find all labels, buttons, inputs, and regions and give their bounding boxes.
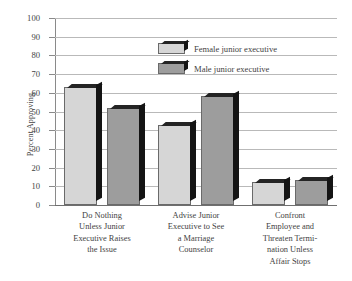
legend-swatch-female-icon	[158, 43, 185, 54]
category-label-line: Counselor	[149, 244, 243, 255]
y-tick-mark: 30	[49, 149, 55, 150]
y-tick-label: 100	[27, 13, 40, 23]
category-label-line: Executive Raises	[55, 233, 149, 244]
legend: Female junior executive Male junior exec…	[158, 41, 277, 81]
y-tick-mark: 60	[49, 93, 55, 94]
x-axis-line	[49, 205, 337, 206]
y-tick-label: 50	[31, 107, 40, 117]
y-tick-mark: 0	[49, 205, 55, 206]
y-tick-label: 20	[31, 163, 40, 173]
bar	[158, 125, 191, 205]
y-tick-label: 0	[36, 200, 40, 210]
y-tick-mark: 10	[49, 186, 55, 187]
y-tick-label: 30	[31, 144, 40, 154]
x-axis-category-label: Do NothingUnless JuniorExecutive Raisest…	[55, 210, 149, 256]
legend-item: Female junior executive	[158, 41, 277, 56]
category-label-line: Affair Stops	[243, 256, 337, 267]
category-label-line: a Marriage	[149, 233, 243, 244]
x-axis-category-label: Advise JuniorExecutive to Seea MarriageC…	[149, 210, 243, 256]
y-tick-label: 60	[31, 88, 40, 98]
y-tick-label: 80	[31, 50, 40, 60]
category-label-line: Executive to See	[149, 221, 243, 232]
y-tick-mark: 50	[49, 112, 55, 113]
category-label-line: nation Unless	[243, 244, 337, 255]
legend-label-female: Female junior executive	[194, 44, 277, 54]
legend-swatch-male-icon	[158, 63, 185, 74]
y-tick-mark: 70	[49, 74, 55, 75]
bar	[201, 96, 234, 205]
y-tick-mark: 20	[49, 168, 55, 169]
category-label-line: the Issue	[55, 244, 149, 255]
y-tick-mark: 40	[49, 130, 55, 131]
y-tick-label: 10	[31, 181, 40, 191]
category-label-line: Confront	[243, 210, 337, 221]
bar-chart: Percent Approving 0102030405060708090100…	[0, 0, 352, 281]
category-label-line: Unless Junior	[55, 221, 149, 232]
category-label-line: Employee and	[243, 221, 337, 232]
y-tick-mark: 90	[49, 37, 55, 38]
bar	[295, 180, 328, 205]
y-tick-mark: 100	[49, 18, 55, 19]
y-tick-mark: 80	[49, 55, 55, 56]
legend-item: Male junior executive	[158, 61, 277, 76]
category-label-line: Do Nothing	[55, 210, 149, 221]
y-tick-label: 90	[31, 32, 40, 42]
category-label-line: Threaten Termi-	[243, 233, 337, 244]
y-tick-label: 70	[31, 69, 40, 79]
bar	[107, 108, 140, 205]
bar	[64, 87, 97, 205]
x-axis-category-label: ConfrontEmployee andThreaten Termi-natio…	[243, 210, 337, 267]
bar	[252, 182, 285, 205]
gridline	[55, 18, 337, 19]
legend-label-male: Male junior executive	[194, 64, 269, 74]
y-tick-label: 40	[31, 125, 40, 135]
category-label-line: Advise Junior	[149, 210, 243, 221]
gridline	[55, 37, 337, 38]
